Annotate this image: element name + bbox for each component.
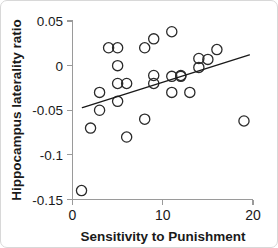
data-point	[212, 44, 222, 54]
data-point	[149, 34, 159, 44]
y-tick-label: 0	[55, 59, 63, 74]
data-point	[239, 116, 249, 126]
y-axis: 0.050-0.05-0.1-0.15	[32, 14, 72, 208]
y-axis-tick-labels: 0.050-0.05-0.1-0.15	[32, 14, 63, 208]
data-point	[94, 87, 104, 97]
data-points-group	[76, 27, 249, 196]
x-tick-label: 20	[245, 207, 261, 223]
y-axis-title: Hippocampus laterality ratio	[9, 19, 24, 201]
data-point	[140, 114, 150, 124]
data-point	[94, 105, 104, 115]
data-point	[185, 87, 195, 97]
regression-trend-line	[82, 55, 249, 108]
data-point	[167, 87, 177, 97]
y-axis-ticks	[67, 21, 73, 200]
y-tick-label: -0.05	[32, 103, 63, 118]
data-point	[122, 132, 132, 142]
y-tick-label: 0.05	[37, 14, 63, 29]
x-axis-tick-labels: 01020	[69, 207, 261, 223]
x-tick-label: 0	[69, 207, 77, 223]
x-axis-title: Sensitivity to Punishment	[80, 229, 246, 244]
y-tick-label: -0.15	[32, 193, 63, 208]
x-axis-ticks	[73, 200, 254, 206]
data-point	[85, 123, 95, 133]
data-point	[76, 185, 86, 195]
data-point	[140, 43, 150, 53]
data-point	[113, 61, 123, 71]
scatter-plot-figure: 0.050-0.05-0.1-0.15 01020 Sensitivity to…	[0, 0, 278, 248]
data-point	[167, 27, 177, 37]
x-axis: 01020	[69, 200, 261, 224]
x-tick-label: 10	[155, 207, 171, 223]
y-tick-label: -0.1	[40, 148, 63, 163]
plot-canvas: 0.050-0.05-0.1-0.15 01020 Sensitivity to…	[1, 1, 278, 248]
